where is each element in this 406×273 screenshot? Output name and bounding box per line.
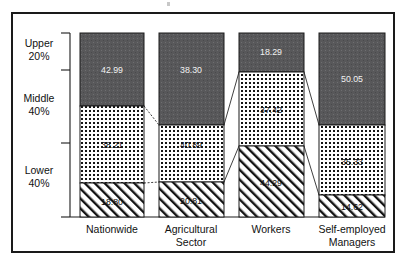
- category-label-self-employed-line1: Self-employed: [318, 223, 385, 235]
- connector-1-2-upper: [144, 106, 159, 125]
- bar-group-agricultural-sector[interactable]: 38.30 40.89 20.81: [159, 33, 224, 217]
- value-label-self-employed-upper: 50.05: [341, 74, 363, 84]
- y-group-upper-label-line2: 20%: [28, 50, 49, 62]
- connector-3-4-middle: [304, 146, 319, 195]
- y-group-upper-label-line1: Upper: [25, 37, 54, 49]
- bar-agricultural-upper[interactable]: [159, 33, 224, 125]
- value-label-workers-lower: 44.29: [260, 178, 282, 188]
- value-label-nationwide-upper: 42.99: [101, 65, 123, 75]
- bar-group-workers[interactable]: 18.29 37.42 44.29: [239, 33, 304, 217]
- y-group-middle-label-line2: 40%: [28, 105, 49, 117]
- value-label-self-employed-middle: 35.33: [341, 157, 363, 167]
- y-axis: [61, 33, 70, 217]
- connector-2-3-upper: [224, 72, 239, 125]
- value-label-workers-middle: 37.42: [260, 105, 282, 115]
- category-label-nationwide: Nationwide: [86, 223, 138, 235]
- category-label-self-employed-line2: Managers: [329, 236, 376, 248]
- value-label-agricultural-middle: 40.89: [180, 140, 202, 150]
- stacked-bar-chart: Upper 20% Middle 40% Lower 40%: [13, 14, 393, 251]
- y-axis-group-labels: Upper 20% Middle 40% Lower 40%: [24, 37, 55, 189]
- bar-group-nationwide[interactable]: 42.99 38.21 18.80: [80, 33, 144, 217]
- plot-area: Upper 20% Middle 40% Lower 40%: [13, 14, 393, 251]
- bar-agricultural-middle[interactable]: [159, 125, 224, 182]
- value-label-workers-upper: 18.29: [260, 47, 282, 57]
- category-label-agricultural-line2: Sector: [176, 236, 207, 248]
- y-group-middle-label-line1: Middle: [24, 92, 55, 104]
- y-group-lower-label-line1: Lower: [25, 164, 54, 176]
- value-label-nationwide-lower: 18.80: [101, 197, 123, 207]
- connector-1-2-middle: [144, 182, 159, 183]
- x-axis-category-labels: Nationwide Agricultural Sector Workers S…: [86, 223, 386, 248]
- category-label-agricultural-line1: Agricultural: [165, 223, 218, 235]
- value-label-nationwide-middle: 38.21: [101, 140, 123, 150]
- value-label-self-employed-lower: 14.62: [341, 202, 363, 212]
- y-group-lower-label-line2: 40%: [28, 177, 49, 189]
- bar-group-self-employed-managers[interactable]: 50.05 35.33 14.62: [319, 33, 385, 217]
- category-label-workers: Workers: [252, 223, 291, 235]
- value-label-agricultural-upper: 38.30: [180, 65, 202, 75]
- value-label-agricultural-lower: 20.81: [180, 196, 202, 206]
- scan-artifact: [167, 2, 170, 6]
- chart-frame: Upper 20% Middle 40% Lower 40%: [11, 12, 395, 253]
- connector-3-4-upper: [304, 72, 319, 125]
- connector-2-3-middle: [224, 146, 239, 182]
